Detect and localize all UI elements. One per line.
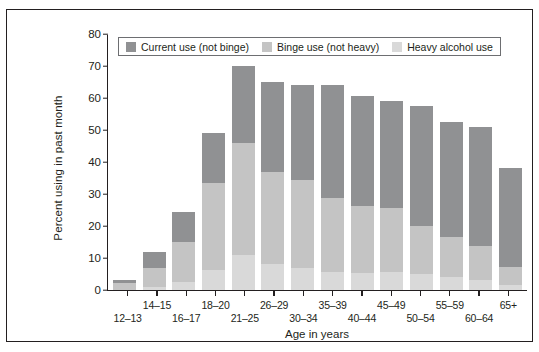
bar-segment xyxy=(172,212,195,242)
x-tick-label: 35–39 xyxy=(319,299,347,311)
bar-segment xyxy=(261,82,284,172)
bar-segment xyxy=(291,85,314,179)
bar-segment xyxy=(232,143,255,255)
x-tick-label: 65+ xyxy=(500,299,517,311)
bar-segment xyxy=(469,280,492,290)
y-axis-title: Percent using in past month xyxy=(52,73,64,263)
x-tick-mark xyxy=(391,290,392,296)
bar-segment xyxy=(261,172,284,264)
bar-segment xyxy=(351,273,374,290)
bar-segment xyxy=(291,180,314,268)
bar-column xyxy=(440,35,463,290)
bar-column xyxy=(321,35,344,290)
x-tick-label: 40–44 xyxy=(348,312,376,324)
bar-segment xyxy=(351,206,374,273)
x-tick-mark xyxy=(303,290,304,296)
bar-column xyxy=(232,35,255,290)
x-tick-label: 60–64 xyxy=(465,312,493,324)
figure-frame: Percent using in past month 010203040506… xyxy=(6,9,533,342)
bar-segment xyxy=(261,264,284,290)
bar-column xyxy=(261,35,284,290)
bar-segment xyxy=(440,277,463,290)
bar-column xyxy=(410,35,433,290)
chart-figure: Percent using in past month 010203040506… xyxy=(0,0,539,352)
x-tick-label: 55–59 xyxy=(436,299,464,311)
bar-segment xyxy=(143,268,166,288)
legend-swatch-icon xyxy=(126,42,136,52)
bar-column xyxy=(143,35,166,290)
x-tick-label: 30–34 xyxy=(289,312,317,324)
x-tick-label: 21–25 xyxy=(231,312,259,324)
bar-segment xyxy=(232,66,255,143)
x-tick-mark xyxy=(215,290,216,296)
x-tick-mark xyxy=(332,290,333,296)
x-tick-mark xyxy=(273,290,274,296)
chart-legend: Current use (not binge)Binge use (not he… xyxy=(118,37,501,56)
x-tick-mark xyxy=(156,290,157,296)
x-tick-mark xyxy=(361,290,362,296)
bar-segment xyxy=(321,198,344,272)
x-tick-label: 14–15 xyxy=(143,299,171,311)
bar-segment xyxy=(380,272,403,290)
legend-label: Heavy alcohol use xyxy=(407,41,493,53)
legend-label: Current use (not binge) xyxy=(141,41,249,53)
bar-segment xyxy=(499,168,522,267)
bar-segment xyxy=(172,282,195,290)
x-tick-label: 16–17 xyxy=(172,312,200,324)
bar-segment xyxy=(351,96,374,205)
x-tick-label: 45–49 xyxy=(377,299,405,311)
bar-column xyxy=(469,35,492,290)
legend-swatch-icon xyxy=(262,42,272,52)
bar-segment xyxy=(143,287,166,290)
bar-segment xyxy=(113,283,136,290)
x-tick-label: 12–13 xyxy=(114,312,142,324)
x-tick-mark xyxy=(449,290,450,296)
bar-segment xyxy=(410,274,433,290)
legend-item: Binge use (not heavy) xyxy=(262,41,379,53)
bar-segment xyxy=(321,85,344,198)
bar-series-group xyxy=(108,35,527,290)
bar-segment xyxy=(232,255,255,290)
bar-segment xyxy=(202,133,225,183)
bar-segment xyxy=(440,122,463,237)
bar-segment xyxy=(499,267,522,284)
legend-label: Binge use (not heavy) xyxy=(277,41,379,53)
bar-segment xyxy=(440,237,463,277)
x-tick-mark xyxy=(478,290,479,296)
bar-segment xyxy=(499,285,522,290)
bar-segment xyxy=(410,106,433,226)
x-axis-title: Age in years xyxy=(107,328,527,340)
bar-column xyxy=(113,35,136,290)
bar-segment xyxy=(202,270,225,290)
bar-segment xyxy=(469,246,492,280)
legend-item: Current use (not binge) xyxy=(126,41,249,53)
x-tick-mark xyxy=(186,290,187,296)
x-tick-label: 26–29 xyxy=(260,299,288,311)
x-tick-label: 50–54 xyxy=(406,312,434,324)
bar-segment xyxy=(321,272,344,290)
bar-segment xyxy=(410,226,433,274)
legend-item: Heavy alcohol use xyxy=(392,41,493,53)
bar-segment xyxy=(143,252,166,268)
bar-segment xyxy=(172,242,195,282)
plot-area: 01020304050607080 12–1314–1516–1718–2021… xyxy=(107,35,527,291)
bar-segment xyxy=(202,183,225,269)
bar-column xyxy=(172,35,195,290)
bar-column xyxy=(351,35,374,290)
x-tick-mark xyxy=(508,290,509,296)
bar-segment xyxy=(380,208,403,271)
bar-column xyxy=(291,35,314,290)
x-tick-mark xyxy=(244,290,245,296)
x-tick-mark xyxy=(127,290,128,296)
bar-column xyxy=(202,35,225,290)
bar-segment xyxy=(469,127,492,246)
x-tick-mark xyxy=(420,290,421,296)
bar-column xyxy=(380,35,403,290)
x-tick-label: 18–20 xyxy=(201,299,229,311)
legend-swatch-icon xyxy=(392,42,402,52)
bar-column xyxy=(499,35,522,290)
bar-segment xyxy=(380,101,403,208)
bar-segment xyxy=(291,268,314,290)
